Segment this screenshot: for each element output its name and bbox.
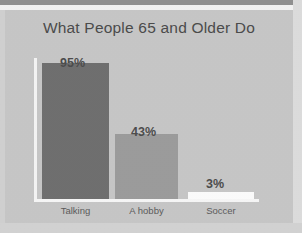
bar-value-label-soccer: 3% [206, 177, 224, 191]
category-label-a-hobby: A hobby [115, 205, 178, 216]
x-axis-line [34, 199, 259, 202]
bar-soccer [188, 192, 254, 199]
category-label-soccer: Soccer [188, 205, 254, 216]
chart-screenshot: What People 65 and Older Do 95% 43% 3% T… [0, 0, 302, 233]
chart-slide: What People 65 and Older Do 95% 43% 3% T… [5, 10, 293, 223]
bar-a-hobby [115, 134, 178, 199]
bar-value-label-a-hobby: 43% [131, 125, 156, 139]
page-right-margin [293, 0, 302, 233]
y-axis-line [34, 58, 37, 200]
category-label-talking: Talking [42, 205, 109, 216]
bar-talking [42, 63, 109, 199]
bar-value-label-talking: 95% [60, 56, 85, 70]
page-bottom-margin [0, 223, 302, 233]
plot-area: 95% 43% 3% Talking A hobby Soccer [5, 10, 293, 223]
